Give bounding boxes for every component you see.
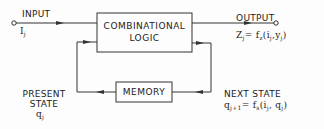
eq-part: , q: [269, 100, 281, 110]
present-state-label: PRESENT STATE qj: [21, 89, 67, 122]
input-label: INPUT: [22, 9, 50, 19]
combinational-line1: COMBINATIONAL: [97, 20, 192, 32]
next-state-equation: qj+1= fs(ij, qj): [224, 100, 287, 113]
eq-part: (i: [260, 100, 267, 110]
combinational-line2: LOGIC: [97, 32, 192, 44]
present-state-line2: STATE: [21, 99, 67, 109]
combinational-logic-label: COMBINATIONAL LOGIC: [97, 20, 192, 44]
eq-part: ): [283, 30, 287, 40]
state-sub: j: [42, 113, 44, 120]
output-label: OUTPUT: [236, 13, 274, 23]
eq-part: (i: [263, 30, 270, 40]
present-state-symbol: qj: [13, 109, 67, 122]
eq-sub: j+1: [230, 104, 242, 111]
input-terminal-icon: [12, 21, 16, 25]
eq-part: ,y: [272, 30, 281, 40]
present-state-line1: PRESENT: [21, 89, 67, 99]
output-equation: Zj= fz(ij,yj): [236, 30, 287, 43]
input-symbol-sub: j: [24, 30, 26, 37]
input-symbol: Ij: [20, 26, 26, 39]
eq-part: = f: [242, 100, 257, 110]
next-state-label: NEXT STATE: [224, 89, 281, 99]
eq-part: ): [283, 100, 287, 110]
memory-label: MEMORY: [116, 86, 172, 98]
sequential-circuit-diagram: INPUT Ij COMBINATIONAL LOGIC OUTPUT Zj= …: [0, 0, 324, 129]
eq-part: = f: [245, 30, 260, 40]
